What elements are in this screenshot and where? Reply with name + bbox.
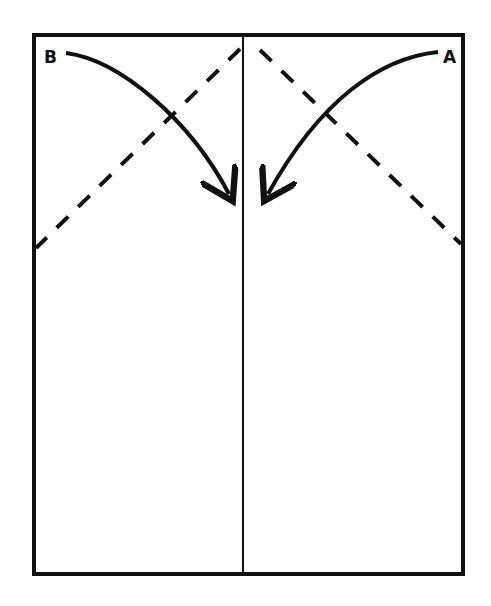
fold-diagram: B A (0, 0, 491, 606)
corner-label-b: B (44, 47, 57, 67)
corner-label-a: A (443, 47, 457, 67)
paper-outline (34, 35, 463, 574)
